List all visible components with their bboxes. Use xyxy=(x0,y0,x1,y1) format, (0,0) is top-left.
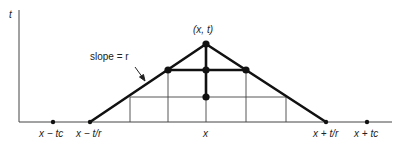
lower-node xyxy=(202,93,209,100)
right-node xyxy=(242,66,249,73)
left-base-node xyxy=(88,120,92,124)
slope-label: slope = r xyxy=(90,51,129,62)
domain-of-dependence-diagram xyxy=(0,0,408,148)
apex-label: (x, t) xyxy=(193,24,213,35)
apex-node xyxy=(202,40,209,47)
x-minus-tc-dot xyxy=(51,120,55,124)
right-base-node xyxy=(324,120,328,124)
x-plus-tc-dot xyxy=(365,120,369,124)
y-axis-label: t xyxy=(9,9,12,20)
tick-label-x-plus-tc: x + tc xyxy=(354,128,378,139)
tick-label-x-plus-t-over-r: x + t/r xyxy=(313,128,338,139)
tick-label-x-minus-t-over-r: x − t/r xyxy=(76,128,101,139)
left-node xyxy=(164,66,171,73)
center-node xyxy=(202,66,209,73)
tick-label-x-minus-tc: x − tc xyxy=(39,128,63,139)
slope-arrow xyxy=(135,67,145,81)
tick-label-x: x xyxy=(203,128,208,139)
